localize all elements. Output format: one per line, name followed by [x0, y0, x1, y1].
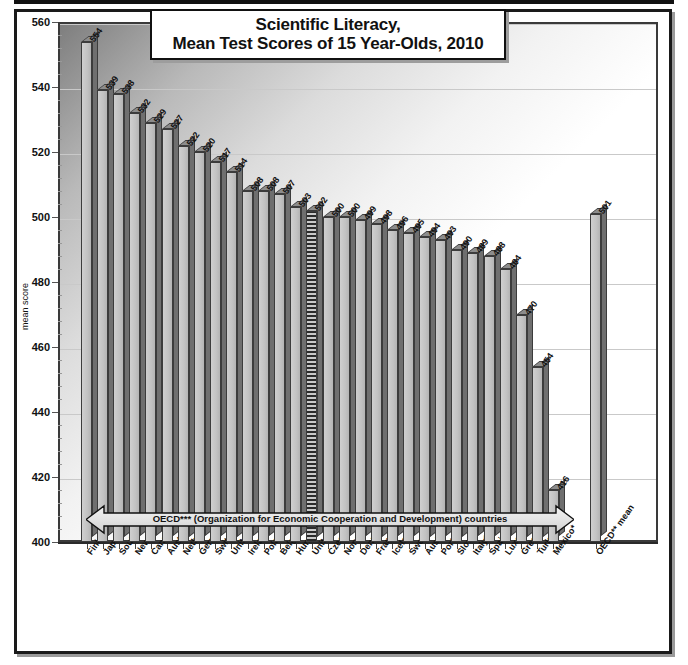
bar [113, 94, 124, 543]
y-tick-mark [52, 412, 58, 413]
y-tick-minor [58, 425, 62, 426]
y-tick-minor [58, 438, 62, 439]
y-tick-label: 540 [6, 81, 50, 93]
bar [387, 230, 398, 542]
y-tick-minor [58, 308, 62, 309]
bar [323, 217, 334, 542]
y-tick-minor [58, 178, 62, 179]
y-tick-minor [58, 204, 62, 205]
y-tick-minor [58, 399, 62, 400]
gridline [60, 89, 656, 90]
y-tick-minor [58, 529, 62, 530]
y-tick-minor [58, 334, 62, 335]
y-tick-minor [58, 360, 62, 361]
bar [226, 172, 237, 543]
bar [81, 42, 92, 543]
y-tick-mark [52, 477, 58, 478]
y-tick-minor [58, 100, 62, 101]
bar [274, 194, 285, 542]
y-tick-label: 440 [6, 406, 50, 418]
bar [258, 191, 269, 542]
y-tick-minor [58, 165, 62, 166]
y-tick-minor [58, 451, 62, 452]
chart-root: 400420440460480500520540560mean score 55… [0, 0, 688, 665]
bar [194, 152, 205, 542]
bar [371, 224, 382, 543]
y-tick-minor [58, 61, 62, 62]
y-tick-minor [58, 191, 62, 192]
y-tick-minor [58, 490, 62, 491]
y-tick-minor [58, 516, 62, 517]
y-tick-minor [58, 139, 62, 140]
y-tick-label: 460 [6, 341, 50, 353]
chart-title-line2: Mean Test Scores of 15 Year-Olds, 2010 [162, 34, 494, 53]
bar [403, 233, 414, 542]
y-tick-mark [52, 22, 58, 23]
y-tick-minor [58, 464, 62, 465]
bar [210, 162, 221, 542]
oecd-annotation-text: OECD*** (Organization for Economic Coope… [86, 509, 574, 529]
bar [178, 146, 189, 543]
bar [467, 253, 478, 542]
y-tick-label: 520 [6, 146, 50, 158]
y-tick-minor [58, 230, 62, 231]
y-tick-mark [52, 87, 58, 88]
y-tick-minor [58, 48, 62, 49]
y-tick-minor [58, 373, 62, 374]
chart-title-line1: Scientific Literacy, [162, 15, 494, 34]
y-tick-minor [58, 243, 62, 244]
y-tick-mark [52, 152, 58, 153]
y-tick-label: 560 [6, 16, 50, 28]
y-tick-minor [58, 386, 62, 387]
y-tick-mark [52, 282, 58, 283]
y-tick-minor [58, 269, 62, 270]
bar [145, 123, 156, 542]
y-tick-label: 400 [6, 536, 50, 548]
chart-title-box: Scientific Literacy, Mean Test Scores of… [150, 9, 506, 60]
y-axis-title: mean score [20, 283, 30, 330]
bar [129, 113, 140, 542]
bar-united-states [306, 211, 317, 543]
bar [97, 90, 108, 542]
y-tick-minor [58, 503, 62, 504]
y-tick-minor [58, 74, 62, 75]
y-tick-minor [58, 126, 62, 127]
y-tick-minor [58, 295, 62, 296]
bar-side-face [601, 203, 607, 536]
bar [162, 129, 173, 542]
bar [435, 240, 446, 542]
bar [484, 256, 495, 542]
bar [590, 214, 601, 542]
y-tick-minor [58, 256, 62, 257]
y-tick-mark [52, 217, 58, 218]
bar [419, 237, 430, 543]
bar [451, 250, 462, 543]
bar [290, 207, 301, 542]
top-rule [14, 0, 674, 4]
y-tick-minor [58, 321, 62, 322]
bar [500, 269, 511, 542]
y-tick-minor [58, 35, 62, 36]
bar [355, 220, 366, 542]
y-tick-minor [58, 113, 62, 114]
bar [242, 191, 253, 542]
y-tick-mark [52, 347, 58, 348]
y-tick-label: 420 [6, 471, 50, 483]
y-tick-label: 500 [6, 211, 50, 223]
bar [339, 217, 350, 542]
